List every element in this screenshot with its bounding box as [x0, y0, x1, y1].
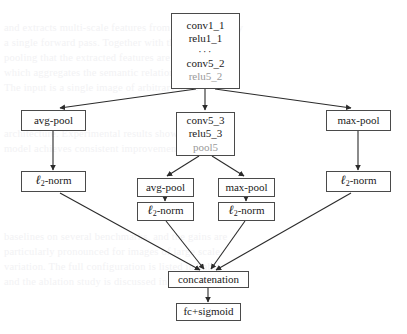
inner-avg-pool: avg-pool [137, 178, 194, 197]
edge-inner-max-norm-to-concatenation [211, 221, 245, 269]
right-max-pool-label: max-pool [337, 114, 379, 128]
inner-avg-l2-norm-label: ℓ2-norm [147, 204, 183, 219]
left-avg-pool-label: avg-pool [34, 114, 73, 128]
inner-max-l2-norm-suffix: -norm [238, 204, 265, 216]
edge-center-to-inner-max-pool [212, 156, 244, 176]
left-avg-pool: avg-pool [21, 110, 86, 131]
inner-avg-pool-label: avg-pool [146, 181, 185, 195]
edge-trunk-to-right-max-pool [215, 89, 351, 108]
trunk-line-1: relu1_1 [189, 32, 223, 46]
concatenation: concatenation [168, 271, 249, 288]
fc-sigmoid: fc+sigmoid [176, 303, 241, 321]
right-l2-norm: ℓ2-norm [326, 171, 391, 192]
inner-avg-l2-norm-suffix: -norm [157, 204, 184, 216]
center-line-1: relu5_3 [189, 127, 223, 141]
inner-max-l2-norm-label: ℓ2-norm [228, 204, 264, 219]
right-l2-norm-suffix: -norm [350, 174, 377, 186]
right-max-pool: max-pool [326, 110, 391, 131]
edge-center-to-inner-avg-pool [167, 156, 199, 176]
right-l2-norm-label: ℓ2-norm [340, 174, 376, 189]
conv5_3-block: conv5_3 relu5_3 pool5 [176, 112, 235, 156]
left-l2-norm-suffix: -norm [45, 174, 72, 186]
inner-max-pool: max-pool [218, 178, 275, 197]
center-line-0: conv5_3 [187, 114, 225, 128]
trunk-line-4: relu5_2 [189, 70, 223, 84]
inner-avg-l2-norm-subscript: 2 [153, 209, 157, 218]
trunk-line-0: conv1_1 [187, 19, 225, 33]
trunk-line-ellipsis: ··· [198, 46, 213, 57]
left-l2-norm: ℓ2-norm [21, 171, 86, 192]
edge-trunk-to-left-avg-pool [60, 89, 196, 108]
inner-max-l2-norm: ℓ2-norm [218, 202, 275, 221]
concatenation-label: concatenation [178, 273, 239, 287]
left-l2-norm-label: ℓ2-norm [35, 174, 71, 189]
inner-max-pool-label: max-pool [225, 181, 267, 195]
trunk-line-3: conv5_2 [187, 57, 225, 71]
inner-max-l2-norm-subscript: 2 [234, 209, 238, 218]
left-l2-norm-subscript: 2 [41, 179, 45, 188]
inner-avg-l2-norm: ℓ2-norm [137, 202, 194, 221]
center-line-2: pool5 [193, 141, 218, 155]
right-l2-norm-subscript: 2 [346, 179, 350, 188]
trunk-block: conv1_1 relu1_1 ··· conv5_2 relu5_2 [171, 13, 240, 89]
fc-sigmoid-label: fc+sigmoid [183, 305, 233, 319]
